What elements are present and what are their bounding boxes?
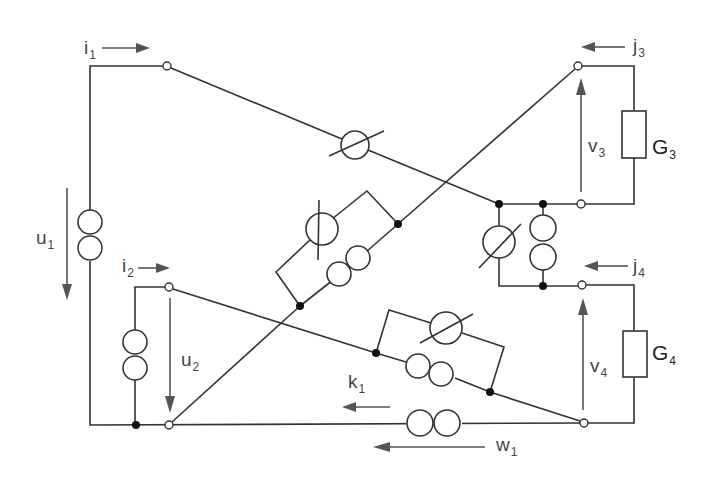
junction-node (486, 388, 494, 396)
junction-node (394, 220, 402, 228)
current-arrow-i1 (102, 43, 150, 53)
variable-resistor-icon (420, 312, 473, 344)
label-base: w (496, 434, 510, 455)
label-sub: 4 (669, 354, 676, 368)
terminal-port1-top (163, 62, 171, 70)
resistor-G3-icon (622, 111, 646, 158)
junction-node (495, 200, 503, 208)
label-i1: i1 (84, 38, 96, 61)
terminal-port3-top (574, 62, 582, 70)
label-u1: u1 (36, 228, 54, 251)
label-base: i (84, 37, 88, 58)
double-circle-source-icon (530, 215, 556, 270)
current-arrow-i2 (138, 263, 170, 273)
label-v3: v3 (588, 136, 605, 159)
arrow-w1 (373, 442, 485, 452)
junction-node (296, 302, 304, 310)
bottom-source (406, 410, 462, 436)
port-4-branch (578, 281, 647, 427)
terminal-port4-top (578, 281, 586, 289)
label-base: G (652, 135, 668, 158)
label-j4: j4 (633, 256, 645, 279)
junction-node (539, 200, 547, 208)
voltage-arrow-v3 (576, 78, 586, 192)
voltage-source-port2-icon (123, 330, 147, 380)
label-sub: 1 (359, 382, 366, 396)
label-G4: G4 (652, 342, 676, 367)
current-arrow-j3 (581, 42, 625, 52)
center-right-branch (479, 200, 578, 290)
label-v4: v4 (590, 356, 607, 379)
voltage-source-u1-icon (78, 210, 102, 260)
label-sub: 3 (638, 46, 645, 60)
resistor-G4-icon (623, 331, 647, 377)
terminal-port2-bottom (165, 421, 173, 429)
voltage-arrow-u1 (62, 188, 72, 300)
junction-node (539, 282, 547, 290)
junction-node (372, 349, 380, 357)
label-sub: 1 (89, 48, 96, 62)
port-3-branch (499, 62, 646, 208)
label-base: v (590, 355, 600, 376)
branch-top-variable-resistor (171, 68, 499, 204)
label-sub: 2 (127, 266, 134, 280)
double-circle-source-icon (407, 410, 433, 436)
label-sub: 4 (601, 366, 608, 380)
label-sub: 4 (638, 266, 645, 280)
label-sub: 1 (48, 238, 55, 252)
label-base: v (588, 135, 598, 156)
label-j3: j3 (633, 36, 645, 59)
double-circle-source-icon (327, 246, 370, 286)
lower-diagonal-branch (173, 289, 580, 421)
current-arrow-j4 (584, 261, 628, 271)
voltage-arrow-u2 (165, 298, 175, 413)
label-base: j (633, 35, 637, 56)
label-sub: 1 (511, 445, 518, 459)
label-i2: i2 (122, 256, 134, 279)
port-2-branch (123, 283, 173, 429)
label-base: u (36, 227, 47, 248)
circuit-diagram (0, 0, 715, 481)
terminal-port4-bottom (580, 419, 588, 427)
label-base: G (652, 341, 668, 364)
variable-resistor-icon (306, 200, 338, 260)
voltage-arrow-v4 (578, 298, 588, 410)
label-sub: 2 (193, 360, 200, 374)
junction-node (132, 421, 140, 429)
label-base: i (122, 255, 126, 276)
terminal-port2-top (165, 283, 173, 291)
double-circle-source-icon (406, 354, 453, 386)
current-arrow-k1 (342, 402, 390, 412)
label-base: u (181, 349, 192, 370)
label-base: k (348, 371, 358, 392)
label-w1: w1 (496, 435, 517, 458)
label-k1: k1 (348, 372, 365, 395)
variable-resistor-icon (329, 131, 384, 159)
terminal-port3-bottom (577, 200, 585, 208)
variable-resistor-icon (479, 224, 521, 268)
label-G3: G3 (652, 136, 676, 161)
label-sub: 3 (599, 146, 606, 160)
label-sub: 3 (669, 148, 676, 162)
label-u2: u2 (181, 350, 199, 373)
label-base: j (633, 255, 637, 276)
